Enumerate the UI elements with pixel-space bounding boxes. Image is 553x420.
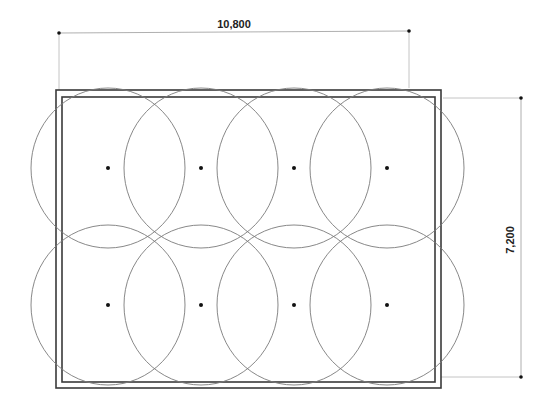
- height-endpoint-bottom: [519, 375, 523, 379]
- fixture-point: [199, 303, 203, 307]
- height-endpoint-top: [519, 96, 523, 100]
- room-walls: [56, 90, 441, 388]
- width-dimension: 10,800: [57, 18, 411, 90]
- fixture-point: [199, 166, 203, 170]
- fixture-point: [106, 303, 110, 307]
- coverage-circles: [31, 88, 464, 385]
- height-dimension: 7,200: [441, 96, 523, 379]
- inner-wall: [62, 97, 435, 382]
- fixture-point: [385, 166, 389, 170]
- height-label: 7,200: [504, 226, 516, 254]
- fixture-point: [292, 166, 296, 170]
- width-label: 10,800: [217, 18, 251, 30]
- width-endpoint-right: [407, 29, 411, 33]
- width-endpoint-left: [57, 31, 61, 35]
- fixture-point: [385, 303, 389, 307]
- width-dimension-line: [59, 31, 409, 33]
- outer-wall: [56, 90, 441, 388]
- coverage-diagram: 10,800 7,200: [0, 0, 553, 420]
- fixture-point: [106, 166, 110, 170]
- fixture-point: [292, 303, 296, 307]
